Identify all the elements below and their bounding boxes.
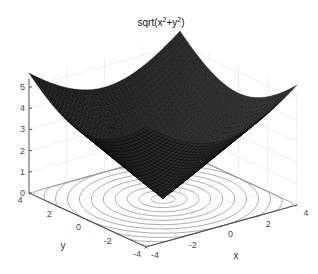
y-axis-label: y	[61, 240, 66, 251]
z-tick-label: 5	[20, 82, 25, 92]
surface-patch	[290, 85, 297, 91]
z-tick-label: 1	[20, 167, 25, 177]
y-tick-label: -4	[133, 249, 141, 259]
surface-plot: -4-2024-4-2024012345 sqrt(x2+y2) x y	[0, 0, 318, 274]
cone-surface	[29, 31, 297, 199]
x-tick-label: -2	[189, 240, 197, 250]
y-tick-label: 2	[47, 209, 52, 219]
x-tick-label: 4	[303, 208, 308, 218]
x-tick-label: 0	[228, 229, 233, 239]
y-tick-label: -2	[104, 236, 112, 246]
x-tick-label: -4	[151, 250, 159, 260]
y-tick	[146, 247, 148, 249]
z-tick-label: 2	[20, 146, 25, 156]
y-tick-label: 0	[76, 222, 81, 232]
x-tick-label: 2	[266, 219, 271, 229]
z-tick-label: 3	[20, 124, 25, 134]
z-tick-label: 4	[20, 103, 25, 113]
x-axis-label: x	[234, 250, 239, 261]
z-tick-label: 0	[20, 188, 25, 198]
chart-title: sqrt(x2+y2)	[138, 16, 185, 28]
